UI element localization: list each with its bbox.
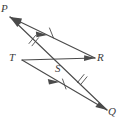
segment-tr xyxy=(22,55,95,61)
geometry-figure: P R T S Q xyxy=(0,0,124,126)
arrowhead-toward-r xyxy=(84,55,95,61)
vertex-label-q: Q xyxy=(108,106,116,117)
segment-pr-line xyxy=(10,17,95,58)
arrowhead-midsegment-tq xyxy=(48,79,60,85)
geometry-canvas xyxy=(0,0,124,126)
vertex-label-t: T xyxy=(9,52,15,63)
vertex-label-s: S xyxy=(55,63,61,74)
vertex-label-p: P xyxy=(1,3,8,14)
segment-pr xyxy=(10,17,95,58)
vertex-label-r: R xyxy=(97,52,104,63)
